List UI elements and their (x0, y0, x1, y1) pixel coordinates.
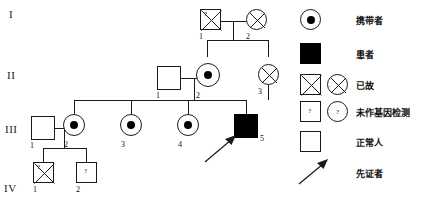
individual-number-III-1: 1 (30, 142, 34, 150)
legend-symbol-deceased-male (300, 74, 321, 95)
sibship-bar-II (207, 40, 268, 41)
individual-IV-2[interactable]: ? (76, 162, 97, 183)
untested-marker: ? (84, 168, 87, 175)
legend-symbol-deceased-female (327, 74, 348, 95)
individual-number-II-3: 3 (258, 88, 262, 96)
individual-number-III-2: 2 (64, 141, 68, 149)
individual-number-II-1: 1 (156, 92, 160, 100)
generation-label-4: IV (4, 182, 17, 194)
deceased-x-icon (301, 75, 322, 96)
individual-III-2[interactable] (63, 114, 85, 136)
individual-II-1[interactable] (157, 66, 181, 90)
legend-label-affected: 患者 (356, 48, 374, 61)
carrier-dot-icon (70, 121, 78, 129)
untested-marker: ? (308, 108, 311, 115)
individual-III-3[interactable] (120, 114, 142, 136)
sibline-IV-1 (43, 148, 44, 162)
individual-I-2[interactable] (246, 9, 267, 30)
sibline-IV-2 (86, 148, 87, 162)
individual-number-IV-2: 2 (76, 186, 80, 194)
deceased-x-icon (328, 75, 349, 96)
pedigree-chart: I II III IV ? 1 2 1 2 (0, 0, 432, 216)
legend-symbol-affected (300, 43, 321, 64)
individual-II-3[interactable] (258, 64, 279, 85)
individual-number-II-2: 2 (196, 92, 200, 100)
untested-marker: ? (336, 109, 339, 116)
deceased-x-icon (247, 10, 268, 31)
legend-label-carrier: 携带者 (356, 14, 383, 27)
sibship-bar-III (74, 100, 246, 101)
individual-III-1[interactable] (31, 116, 55, 140)
carrier-dot-icon (127, 121, 135, 129)
legend-label-untested: 未作基因检测 (356, 106, 410, 119)
generation-label-2: II (7, 69, 15, 81)
carrier-dot-icon (184, 121, 192, 129)
individual-number-I-1: 1 (199, 33, 203, 41)
deceased-x-icon (34, 163, 55, 184)
sibline-III-5 (246, 100, 247, 114)
deceased-x-icon (259, 65, 280, 86)
individual-II-2[interactable] (196, 63, 220, 87)
generation-label-1: I (9, 8, 13, 20)
deceased-x-icon (201, 10, 222, 31)
descent-stem-II-3 (268, 85, 269, 100)
sibline-II-2 (207, 40, 208, 57)
sibline-III-4 (188, 100, 189, 114)
carrier-dot-icon (307, 16, 315, 24)
legend-label-normal: 正常人 (356, 136, 383, 149)
legend-label-proband: 先证者 (356, 167, 383, 180)
legend-symbol-carrier (300, 9, 321, 30)
legend-symbol-normal (300, 131, 321, 152)
individual-number-IV-1: 1 (33, 186, 37, 194)
individual-I-1[interactable]: ? (200, 9, 221, 30)
sibline-III-3 (131, 100, 132, 114)
legend-symbol-untested-male: ? (300, 101, 321, 122)
legend-symbol-untested-female: ? (327, 101, 348, 122)
sibline-III-2 (74, 100, 75, 114)
individual-III-4[interactable] (177, 114, 199, 136)
descent-stem-II (194, 78, 195, 100)
legend-label-deceased: 已故 (356, 79, 374, 92)
sibline-II-3 (268, 40, 269, 57)
legend-symbol-proband (297, 158, 329, 186)
generation-label-3: III (5, 123, 18, 135)
carrier-dot-icon (204, 71, 212, 79)
descent-stem-I (233, 21, 234, 40)
individual-number-III-5: 5 (260, 135, 264, 143)
proband-arrow-icon (203, 134, 239, 164)
individual-number-III-3: 3 (121, 141, 125, 149)
individual-number-I-2: 2 (246, 33, 250, 41)
individual-IV-1[interactable]: ? (33, 162, 54, 183)
individual-number-III-4: 4 (178, 141, 182, 149)
